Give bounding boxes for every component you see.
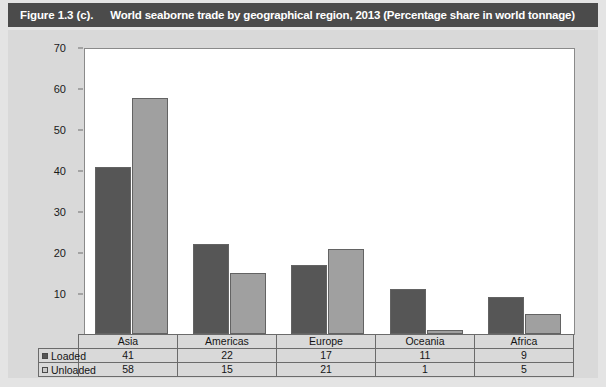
bar-americas-unloaded (230, 273, 266, 334)
table-cell: 41 (79, 348, 178, 362)
y-axis-tick-mark (78, 294, 83, 295)
table-cell: 17 (277, 348, 376, 362)
table-row: Unloaded58152115 (39, 362, 574, 376)
bar-africa-loaded (488, 297, 524, 334)
table-cell: 1 (376, 362, 475, 376)
figure-title-text: World seaborne trade by geographical reg… (110, 9, 575, 21)
y-axis-tick-label: 60 (26, 83, 66, 95)
y-axis-tick-mark (78, 48, 83, 49)
table-column-header-oceania: Oceania (376, 335, 475, 349)
table-header-row: AsiaAmericasEuropeOceaniaAfrica (39, 335, 574, 349)
y-axis-tick-mark (78, 171, 83, 172)
y-axis-tick-label: 70 (26, 42, 66, 54)
legend-item-unloaded: Unloaded (39, 362, 79, 376)
figure-screenshot: Figure 1.3 (c). World seaborne trade by … (0, 0, 606, 387)
table-cell: 11 (376, 348, 475, 362)
bar-africa-unloaded (525, 314, 561, 334)
y-axis-tick-label: 50 (26, 124, 66, 136)
y-axis-tick-mark (78, 253, 83, 254)
legend-label: Loaded (51, 350, 86, 362)
y-axis-tick-label: 10 (26, 288, 66, 300)
bar-oceania-loaded (390, 289, 426, 334)
table-corner-cell (39, 335, 79, 349)
bar-asia-unloaded (132, 98, 168, 334)
y-axis-tick-mark (78, 89, 83, 90)
table-column-header-americas: Americas (178, 335, 277, 349)
y-axis-tick-mark (78, 130, 83, 131)
bar-group (85, 49, 183, 334)
legend-swatch-unloaded-icon (42, 367, 48, 373)
table-cell: 15 (178, 362, 277, 376)
plot-area (84, 48, 575, 335)
table-column-header-europe: Europe (277, 335, 376, 349)
y-axis-tick-mark (78, 212, 83, 213)
figure-title-bar: Figure 1.3 (c). World seaborne trade by … (8, 3, 598, 27)
table-column-header-africa: Africa (475, 335, 574, 349)
table-column-header-asia: Asia (79, 335, 178, 349)
table-body: Loaded412217119Unloaded58152115 (39, 348, 574, 376)
legend-item-loaded: Loaded (39, 348, 79, 362)
bar-group (478, 49, 576, 334)
legend-swatch-loaded-icon (42, 353, 48, 359)
bar-group (183, 49, 281, 334)
bars-layer (85, 49, 574, 334)
bar-americas-loaded (193, 244, 229, 334)
bar-group (281, 49, 379, 334)
y-axis-tick-label: 20 (26, 247, 66, 259)
bar-asia-loaded (95, 167, 131, 334)
bar-europe-unloaded (328, 249, 364, 335)
chart-panel: -10203040506070 (8, 30, 598, 378)
table-cell: 9 (475, 348, 574, 362)
y-axis-tick-label: 30 (26, 206, 66, 218)
legend-label: Unloaded (51, 364, 96, 376)
figure-number-label: Figure 1.3 (c). (20, 9, 93, 21)
table-cell: 21 (277, 362, 376, 376)
bar-group (380, 49, 478, 334)
table-cell: 5 (475, 362, 574, 376)
table-row: Loaded412217119 (39, 348, 574, 362)
bar-europe-loaded (291, 265, 327, 334)
table-cell: 22 (178, 348, 277, 362)
y-axis-tick-label: 40 (26, 165, 66, 177)
data-table: AsiaAmericasEuropeOceaniaAfrica Loaded41… (38, 334, 574, 377)
